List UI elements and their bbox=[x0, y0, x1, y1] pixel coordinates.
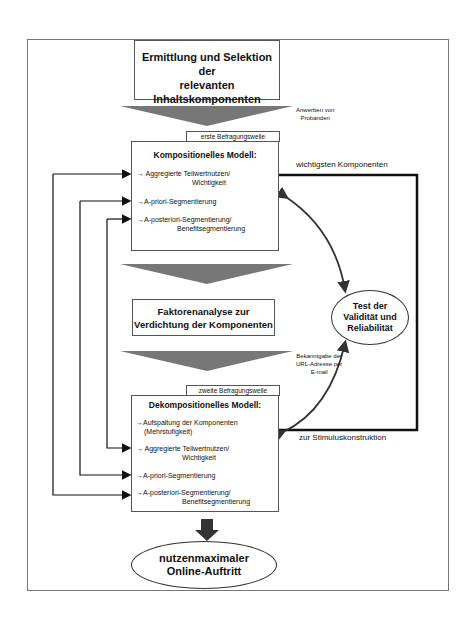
validity-test-ellipse: Test der Validität und Reliabilität bbox=[331, 290, 409, 345]
important-components-label: wichtigsten Komponenten bbox=[296, 160, 388, 169]
comp-item-1: → Aggregierte Teilwertnutzen/ bbox=[137, 170, 230, 177]
comp-item-3b: Benefitsegmentierung bbox=[177, 225, 245, 232]
compositional-model-box: Kompositionelles Modell: → Aggregierte T… bbox=[131, 141, 279, 251]
factor-analysis-box: Faktorenanalyse zur Verdichtung der Komp… bbox=[132, 299, 275, 336]
label-line: Probanden bbox=[296, 114, 334, 122]
box-line: Verdichtung der Komponenten bbox=[133, 318, 274, 331]
decomp-item-3: →A-priori-Segmentierung bbox=[136, 472, 215, 479]
comp-item-3: →A-posteriori-Segmentierung/ bbox=[137, 216, 232, 223]
result-ellipse: nutzenmaximaler Online-Auftritt bbox=[131, 541, 277, 589]
recruit-label: Anwerben von Probanden bbox=[296, 106, 334, 122]
url-label: Bekanntgabe der URL-Adresse per E-mail bbox=[296, 352, 342, 376]
decomp-item-2b: Wichtigkeit bbox=[182, 454, 216, 461]
comp-item-2: →A-priori-Segmentierung bbox=[137, 198, 216, 205]
ellipse-line: nutzenmaximaler bbox=[159, 552, 249, 565]
stimulus-construction-label: zur Stimuluskonstruktion bbox=[299, 433, 386, 442]
content-selection-box: Ermittlung und Selektion der relevanten … bbox=[134, 40, 280, 100]
compositional-title: Kompositionelles Modell: bbox=[132, 150, 278, 160]
decomp-item-2: → Aggregierte Teilwertnutzen/ bbox=[136, 445, 229, 452]
label-line: E-mail bbox=[296, 368, 342, 376]
ellipse-line: Online-Auftritt bbox=[159, 565, 249, 578]
funnel-arrow-2 bbox=[120, 264, 293, 284]
label-line: Bekanntgabe der bbox=[296, 352, 342, 360]
decomp-item-4: →A-posteriori-Segmentierung/ bbox=[136, 489, 231, 496]
ellipse-line: Test der bbox=[343, 301, 397, 312]
label-line: URL-Adresse per bbox=[296, 360, 342, 368]
comp-item-1b: Wichtigkeit bbox=[192, 179, 226, 186]
funnel-arrow-1 bbox=[120, 106, 293, 126]
ellipse-line: Reliabilität bbox=[343, 323, 397, 334]
down-arrow bbox=[195, 519, 219, 541]
ellipse-line: Validität und bbox=[343, 312, 397, 323]
decompositional-model-box: Dekompositionelles Modell: →Aufspaltung … bbox=[131, 395, 279, 512]
decomp-item-4b: Benefitsegmentierung bbox=[182, 498, 250, 505]
funnel-arrow-3 bbox=[120, 351, 293, 371]
box-line: Faktorenanalyse zur bbox=[133, 305, 274, 318]
box-line: relevanten bbox=[135, 78, 279, 92]
decomp-item-1b: (Mehrstufigkeit) bbox=[144, 428, 192, 435]
decomp-item-1: →Aufspaltung der Komponenten bbox=[136, 419, 238, 426]
box-line: Inhaltskomponenten bbox=[135, 92, 279, 106]
decompositional-title: Dekompositionelles Modell: bbox=[132, 400, 278, 410]
label-line: Anwerben von bbox=[296, 106, 334, 114]
box-line: Ermittlung und Selektion der bbox=[135, 50, 279, 78]
